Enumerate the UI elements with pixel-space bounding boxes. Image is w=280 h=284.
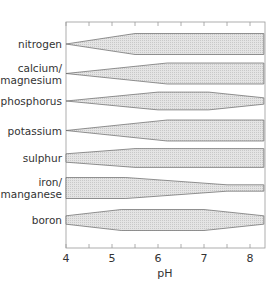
x-axis-label: pH (157, 267, 172, 280)
nutrient-label: nitrogen (18, 38, 62, 50)
nutrient-label: manganese (1, 188, 62, 200)
nutrient-labels: nitrogencalcium/magnesiumphosphoruspotas… (0, 38, 62, 226)
x-tick-label: 6 (155, 252, 162, 265)
band-iron-manganese (66, 178, 264, 199)
x-tick-labels: 45678 (63, 252, 254, 265)
x-tick-label: 7 (201, 252, 208, 265)
nutrient-label: iron/ (38, 176, 62, 188)
nutrient-label: magnesium (0, 74, 62, 86)
band-sulphur (66, 149, 264, 168)
top-ticks (66, 22, 250, 26)
band-phosphorus (66, 92, 264, 110)
nutrient-ph-chart: nitrogencalcium/magnesiumphosphoruspotas… (0, 0, 280, 284)
bottom-ticks (66, 244, 250, 248)
nutrient-label: calcium/ (18, 62, 63, 74)
band-boron (66, 210, 264, 231)
nutrient-label: boron (32, 214, 62, 226)
x-tick-label: 5 (109, 252, 116, 265)
nutrient-bands (66, 34, 264, 231)
nutrient-label: phosphorus (1, 95, 62, 107)
band-potassium (66, 120, 264, 141)
nutrient-label: sulphur (23, 152, 63, 164)
band-calcium-magnesium (66, 63, 264, 84)
x-tick-label: 8 (247, 252, 254, 265)
band-nitrogen (66, 34, 264, 55)
nutrient-label: potassium (8, 125, 62, 137)
x-tick-label: 4 (63, 252, 70, 265)
